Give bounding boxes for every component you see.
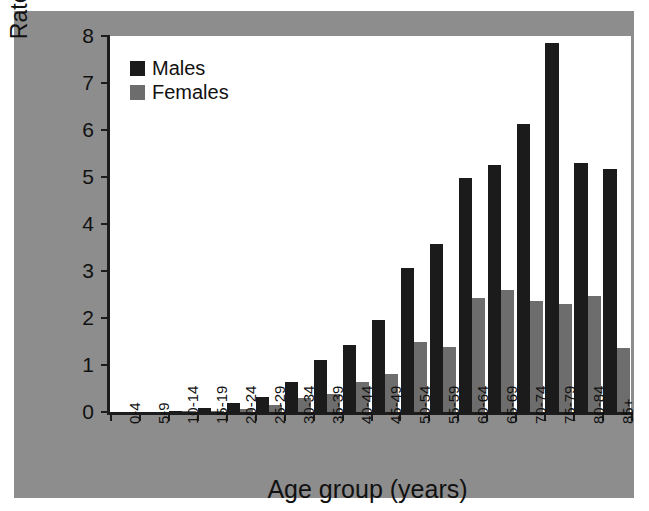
legend-item-females: Females xyxy=(130,82,229,102)
legend-item-males: Males xyxy=(130,58,229,78)
x-axis-tick-label: 55-59 xyxy=(446,386,461,424)
y-axis-tick-label: 0 xyxy=(64,401,94,422)
legend-label-males: Males xyxy=(152,58,205,78)
x-axis-tick-label: 10-14 xyxy=(185,386,200,424)
x-axis-tick-label: 85+ xyxy=(620,399,635,424)
plot-frame: Males Females xyxy=(107,36,631,415)
y-axis-tick xyxy=(101,270,110,272)
x-axis-tick-label: 75-79 xyxy=(562,386,577,424)
bar-males xyxy=(488,165,501,412)
x-axis-tick-label: 70-74 xyxy=(533,386,548,424)
x-axis-tick-label: 65-69 xyxy=(504,386,519,424)
legend-swatch-females-icon xyxy=(130,85,145,100)
x-axis-tick-label: 20-24 xyxy=(243,386,258,424)
y-axis-tick xyxy=(101,82,110,84)
figure-root: Rate per 100,000 population Males Female… xyxy=(0,0,649,511)
x-axis-title: Age group (years) xyxy=(107,475,628,504)
y-axis-tick-label: 1 xyxy=(64,354,94,375)
chart-gray-panel: Rate per 100,000 population Males Female… xyxy=(14,11,634,498)
y-axis-tick xyxy=(101,364,110,366)
legend-swatch-males-icon xyxy=(130,61,145,76)
y-axis-tick-label: 3 xyxy=(64,260,94,281)
x-axis-tick xyxy=(110,412,112,421)
y-axis-tick-label: 8 xyxy=(64,25,94,46)
x-axis-tick-label: 15-19 xyxy=(214,386,229,424)
x-axis-tick-label: 0-4 xyxy=(127,402,142,424)
x-axis-tick-label: 25-29 xyxy=(272,386,287,424)
bar-males xyxy=(517,124,530,412)
y-axis-tick-label: 2 xyxy=(64,307,94,328)
legend-label-females: Females xyxy=(152,82,229,102)
bar-males xyxy=(574,163,587,412)
bar-males xyxy=(459,178,472,412)
x-axis-tick-label: 40-44 xyxy=(359,386,374,424)
x-axis-tick-label: 35-39 xyxy=(330,386,345,424)
x-axis-tick-label: 60-64 xyxy=(475,386,490,424)
x-axis-tick-label: 50-54 xyxy=(417,386,432,424)
legend: Males Females xyxy=(130,58,229,106)
y-axis-tick xyxy=(101,411,110,413)
x-axis-tick-label: 45-49 xyxy=(388,386,403,424)
y-axis-tick xyxy=(101,129,110,131)
y-axis-tick xyxy=(101,317,110,319)
y-axis-tick xyxy=(101,176,110,178)
y-axis-tick-label: 4 xyxy=(64,213,94,234)
bar-males xyxy=(603,169,616,412)
y-axis-tick-label: 7 xyxy=(64,72,94,93)
x-axis-tick-label: 80-84 xyxy=(591,386,606,424)
y-axis-tick xyxy=(101,223,110,225)
x-axis-tick-label: 30-34 xyxy=(301,386,316,424)
y-axis-tick-label: 6 xyxy=(64,119,94,140)
y-axis-title: Rate per 100,000 population xyxy=(6,0,33,74)
x-axis-tick-label: 5-9 xyxy=(156,402,171,424)
bar-males xyxy=(545,43,558,412)
y-axis-tick xyxy=(101,35,110,37)
y-axis-tick-label: 5 xyxy=(64,166,94,187)
